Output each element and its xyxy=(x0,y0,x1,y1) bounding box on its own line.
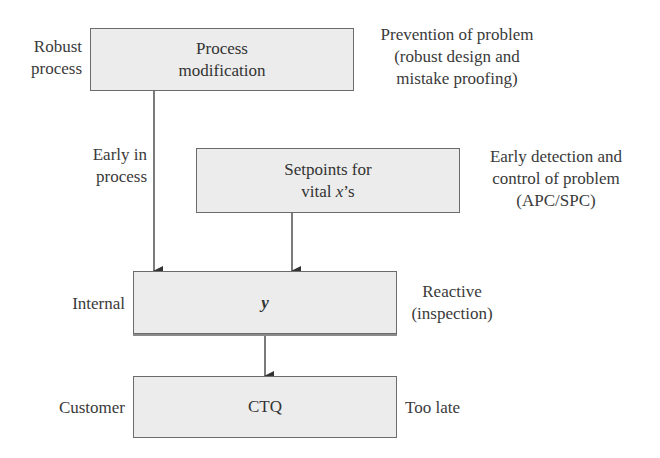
customer-label: Customer xyxy=(59,397,125,419)
robust-process-line2: process xyxy=(31,58,82,80)
reactive-label: Reactive (inspection) xyxy=(402,281,502,325)
reactive-line1: Reactive xyxy=(402,281,502,303)
setpoints-line2-prefix: vital xyxy=(301,182,335,201)
ctq-label: CTQ xyxy=(248,396,282,418)
early-in-process-line1: Early in xyxy=(93,144,147,166)
too-late-text: Too late xyxy=(405,397,460,419)
robust-process-line1: Robust xyxy=(31,36,82,58)
process-modification-box: Process modification xyxy=(90,28,354,91)
internal-text: Internal xyxy=(72,293,125,315)
early-detection-line3: (APC/SPC) xyxy=(468,190,644,212)
process-modification-line1: Process xyxy=(196,38,248,60)
prevention-label: Prevention of problem (robust design and… xyxy=(362,24,552,90)
early-detection-label: Early detection and control of problem (… xyxy=(468,146,644,212)
process-modification-line2: modification xyxy=(179,60,266,82)
customer-text: Customer xyxy=(59,397,125,419)
too-late-label: Too late xyxy=(405,397,460,419)
prevention-line1: Prevention of problem xyxy=(362,24,552,46)
reactive-line2: (inspection) xyxy=(402,303,502,325)
setpoints-box: Setpoints for vital x’s xyxy=(196,148,460,213)
y-box: y xyxy=(133,271,397,334)
prevention-line3: mistake proofing) xyxy=(362,68,552,90)
early-in-process-line2: process xyxy=(93,166,147,188)
robust-process-label: Robust process xyxy=(31,36,82,80)
early-in-process-label: Early in process xyxy=(93,144,147,188)
setpoints-line2-suffix: ’s xyxy=(343,182,354,201)
early-detection-line2: control of problem xyxy=(468,168,644,190)
ctq-box: CTQ xyxy=(133,376,397,438)
setpoints-line1: Setpoints for xyxy=(284,159,371,181)
y-label: y xyxy=(261,292,269,314)
setpoints-line2: vital x’s xyxy=(301,181,354,203)
early-detection-line1: Early detection and xyxy=(468,146,644,168)
prevention-line2: (robust design and xyxy=(362,46,552,68)
internal-label: Internal xyxy=(72,293,125,315)
